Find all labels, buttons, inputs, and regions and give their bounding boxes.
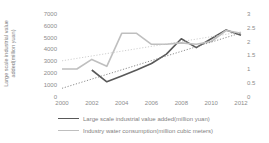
legend-entry-water-consumption: Industry water consumption(million cubic…	[58, 126, 213, 135]
tick-label: 2.5	[247, 25, 265, 31]
tick-label: 2010	[200, 100, 222, 106]
tick-label: 2006	[141, 100, 163, 106]
tick-label: 7000	[35, 11, 57, 17]
trendline	[62, 32, 241, 61]
tick-label: 2008	[170, 100, 192, 106]
tick-label: 6000	[35, 23, 57, 29]
tick-label: 0.5	[247, 80, 265, 86]
tick-label: 2	[247, 39, 265, 45]
legend-label: Large scale industrial value added(milli…	[83, 116, 210, 122]
legend-entry-industrial-value: Large scale industrial value added(milli…	[58, 114, 213, 123]
tick-label: 1	[247, 66, 265, 72]
tick-label: 3	[247, 11, 265, 17]
tick-label: 0	[35, 94, 57, 100]
tick-label: 2002	[81, 100, 103, 106]
tick-label: 1.5	[247, 52, 265, 58]
tick-label: 0	[247, 94, 265, 100]
tick-label: 5000	[35, 35, 57, 41]
line-swatch-icon	[58, 118, 79, 120]
series-line	[92, 30, 241, 82]
tick-label: 2000	[51, 100, 73, 106]
tick-label: 2012	[230, 100, 252, 106]
legend-label: Industry water consumption(million cubic…	[83, 128, 213, 134]
tick-label: 3000	[35, 58, 57, 64]
legend: Large scale industrial value added(milli…	[58, 114, 213, 138]
tick-label: 1000	[35, 82, 57, 88]
tick-label: 2000	[35, 70, 57, 76]
dual-axis-line-chart: Large scale industrial value added(milli…	[0, 0, 269, 143]
line-swatch-icon	[58, 130, 79, 132]
tick-label: 4000	[35, 46, 57, 52]
tick-label: 2004	[111, 100, 133, 106]
